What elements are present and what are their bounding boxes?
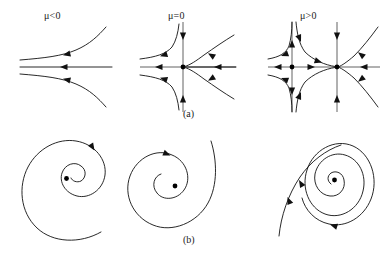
panel-b-spiral-stable-middle — [128, 141, 216, 228]
panel-a-mu-negative — [20, 27, 112, 107]
panel-a-mu-positive — [268, 22, 380, 112]
phase-portrait-artwork — [0, 0, 390, 259]
panel-b-spiral-stable-left — [22, 140, 105, 240]
panel-a-mu-zero — [140, 22, 236, 112]
figure-canvas: μ<0 μ=0 μ>0 (a) (b) — [0, 0, 390, 259]
panel-b-spiral-unstable-right — [279, 143, 374, 236]
